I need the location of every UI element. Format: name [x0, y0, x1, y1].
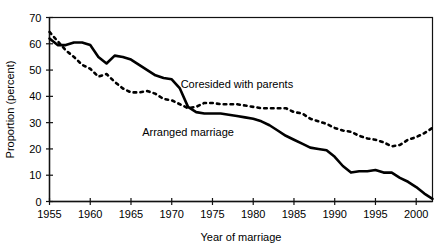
x-tick-label: 1995 — [363, 208, 387, 220]
series-label-arranged: Arranged marriage — [142, 126, 234, 138]
x-tick-label: 2000 — [404, 208, 428, 220]
y-tick-label: 0 — [35, 196, 41, 208]
plot-area-border — [50, 18, 433, 202]
y-tick-label: 20 — [29, 143, 41, 155]
series-paths — [50, 32, 433, 199]
y-tick-label: 10 — [29, 169, 41, 181]
x-tick-label: 1975 — [200, 208, 224, 220]
y-tick-label: 70 — [29, 12, 41, 24]
line-chart: 1955196019651970197519801985199019952000… — [0, 0, 445, 247]
x-tick-label: 1965 — [119, 208, 143, 220]
series-line-arranged — [50, 39, 433, 199]
y-tick-label: 50 — [29, 64, 41, 76]
x-tick-label: 1980 — [241, 208, 265, 220]
y-tick-label: 30 — [29, 117, 41, 129]
chart-container: 1955196019651970197519801985199019952000… — [0, 0, 445, 247]
plot-frame — [50, 18, 433, 202]
series-label-coresided: Coresided with parents — [181, 78, 294, 90]
y-axis-title: Proportion (percent) — [4, 61, 16, 159]
x-tick-label: 1970 — [159, 208, 183, 220]
x-axis-title: Year of marriage — [201, 231, 282, 243]
y-tick-label: 40 — [29, 90, 41, 102]
y-tick-label: 60 — [29, 38, 41, 50]
x-tick-label: 1955 — [37, 208, 61, 220]
x-tick-label: 1960 — [78, 208, 102, 220]
x-tick-label: 1990 — [322, 208, 346, 220]
x-tick-label: 1985 — [282, 208, 306, 220]
